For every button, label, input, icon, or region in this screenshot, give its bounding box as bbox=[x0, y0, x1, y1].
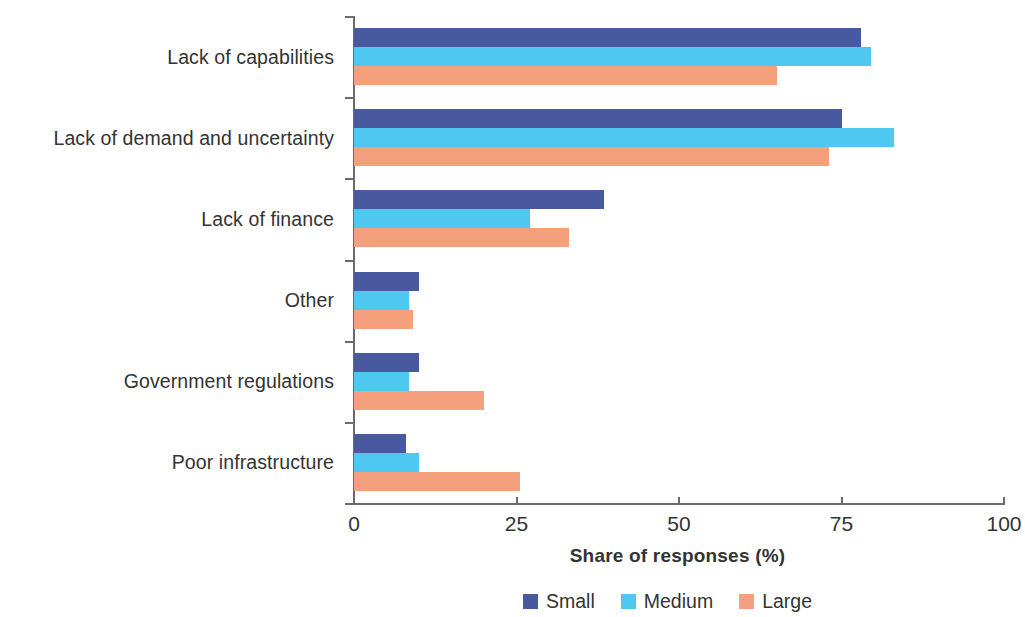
bar bbox=[354, 109, 842, 128]
bar bbox=[354, 453, 419, 472]
legend-label: Medium bbox=[644, 590, 713, 613]
category-label: Lack of demand and uncertainty bbox=[53, 127, 334, 149]
bar bbox=[354, 28, 861, 47]
y-axis-tick bbox=[345, 260, 354, 262]
bar bbox=[354, 291, 409, 310]
bar bbox=[354, 272, 419, 291]
x-axis-tick-label: 100 bbox=[986, 512, 1021, 536]
legend-label: Large bbox=[762, 590, 812, 613]
bar bbox=[354, 147, 829, 166]
y-axis-tick bbox=[345, 422, 354, 424]
x-axis-tick-label: 25 bbox=[505, 512, 528, 536]
bar bbox=[354, 228, 569, 247]
bar bbox=[354, 66, 777, 85]
legend: SmallMediumLarge bbox=[0, 588, 1025, 613]
bar bbox=[354, 353, 419, 372]
y-axis-tick bbox=[345, 178, 354, 180]
legend-swatch-icon bbox=[523, 594, 538, 609]
legend-swatch-icon bbox=[621, 594, 636, 609]
x-axis-title-text: Share of responses (%) bbox=[240, 545, 786, 567]
legend-swatch-icon bbox=[739, 594, 754, 609]
bar bbox=[354, 472, 520, 491]
bar bbox=[354, 190, 604, 209]
legend-item[interactable]: Small bbox=[523, 589, 595, 613]
category-label: Government regulations bbox=[124, 370, 334, 392]
category-label: Lack of finance bbox=[201, 208, 334, 230]
category-axis-labels: Lack of capabilities Lack of demand and … bbox=[0, 16, 344, 503]
x-axis-tick-label: 75 bbox=[830, 512, 853, 536]
category-label: Other bbox=[285, 289, 334, 311]
bar bbox=[354, 391, 484, 410]
bar-chart: Lack of capabilities Lack of demand and … bbox=[0, 0, 1025, 617]
x-axis-title: Share of responses (%) bbox=[0, 545, 1025, 567]
bar bbox=[354, 434, 406, 453]
plot-area bbox=[354, 16, 1004, 503]
category-label: Lack of capabilities bbox=[167, 46, 334, 68]
bar bbox=[354, 372, 409, 391]
category-label: Poor infrastructure bbox=[172, 451, 334, 473]
x-axis-tick-label: 50 bbox=[667, 512, 690, 536]
bar bbox=[354, 209, 530, 228]
legend-item[interactable]: Large bbox=[739, 589, 812, 613]
y-axis-tick bbox=[345, 341, 354, 343]
x-axis-tick-label: 0 bbox=[348, 512, 360, 536]
legend-item[interactable]: Medium bbox=[621, 589, 713, 613]
bar bbox=[354, 310, 413, 329]
bar bbox=[354, 128, 894, 147]
y-axis-tick bbox=[345, 16, 354, 18]
y-axis-tick bbox=[345, 97, 354, 99]
bar bbox=[354, 47, 871, 66]
legend-label: Small bbox=[546, 590, 595, 613]
